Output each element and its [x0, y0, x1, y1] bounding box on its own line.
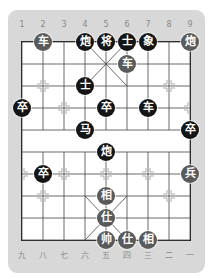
file-label-top: 5 [99, 20, 113, 29]
piece-black[interactable]: 车 [139, 99, 157, 117]
file-label-bottom: 六 [78, 249, 92, 260]
piece-red[interactable]: 兵 [181, 165, 199, 183]
piece-black[interactable]: 卒 [181, 121, 199, 139]
file-label-top: 2 [36, 20, 50, 29]
piece-black[interactable]: 卒 [34, 165, 52, 183]
piece-red[interactable]: 仕 [118, 231, 136, 249]
piece-red[interactable]: 相 [139, 231, 157, 249]
piece-red[interactable]: 相 [97, 187, 115, 205]
file-label-top: 7 [141, 20, 155, 29]
file-label-bottom: 七 [57, 249, 71, 260]
piece-black[interactable]: 卒 [97, 99, 115, 117]
piece-red[interactable]: 仕 [97, 209, 115, 227]
piece-black[interactable]: 士 [76, 77, 94, 95]
file-label-bottom: 五 [99, 249, 113, 260]
file-label-bottom: 八 [36, 249, 50, 260]
file-label-top: 4 [78, 20, 92, 29]
piece-black[interactable]: 将 [97, 33, 115, 51]
piece-red[interactable]: 帅 [97, 231, 115, 249]
file-label-bottom: 一 [183, 249, 197, 260]
piece-red[interactable]: 车 [118, 55, 136, 73]
file-label-top: 6 [120, 20, 134, 29]
piece-black[interactable]: 马 [76, 121, 94, 139]
piece-red[interactable]: 炮 [181, 33, 199, 51]
piece-black[interactable]: 炮 [76, 33, 94, 51]
file-label-bottom: 四 [120, 249, 134, 260]
file-label-top: 9 [183, 20, 197, 29]
file-label-top: 1 [15, 20, 29, 29]
file-label-top: 8 [162, 20, 176, 29]
piece-black[interactable]: 炮 [97, 143, 115, 161]
piece-black[interactable]: 卒 [13, 99, 31, 117]
piece-red[interactable]: 车 [34, 33, 52, 51]
piece-black[interactable]: 士 [118, 33, 136, 51]
file-label-bottom: 三 [141, 249, 155, 260]
file-label-bottom: 二 [162, 249, 176, 260]
piece-black[interactable]: 象 [139, 33, 157, 51]
file-label-bottom: 九 [15, 249, 29, 260]
file-label-top: 3 [57, 20, 71, 29]
